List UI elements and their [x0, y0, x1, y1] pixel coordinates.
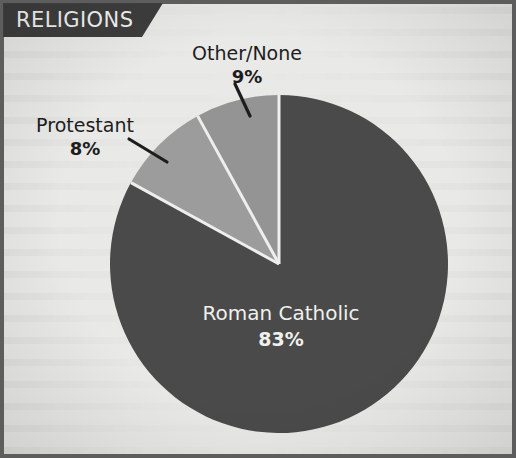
- slice-label-other-none-name: Other/None: [172, 42, 322, 64]
- slice-label-protestant-name: Protestant: [10, 114, 160, 136]
- chart-page: RELIGIONS Other/None 9% Protestant 8% Ro…: [0, 0, 516, 458]
- slice-label-protestant-value: 8%: [10, 138, 160, 159]
- slice-label-protestant: Protestant 8%: [10, 114, 160, 160]
- chart-title-banner: RELIGIONS: [3, 3, 163, 37]
- slice-label-roman-catholic-name: Roman Catholic: [186, 302, 376, 326]
- slice-label-other-none-value: 9%: [172, 66, 322, 87]
- slice-label-roman-catholic: Roman Catholic 83%: [186, 302, 376, 350]
- slice-label-roman-catholic-value: 83%: [186, 328, 376, 350]
- chart-title: RELIGIONS: [3, 8, 133, 32]
- slice-label-other-none: Other/None 9%: [172, 42, 322, 88]
